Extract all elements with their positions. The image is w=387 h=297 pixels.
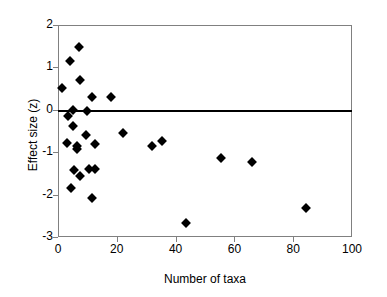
y-tick-label: 1: [13, 60, 53, 72]
x-tick-label: 0: [38, 243, 78, 255]
y-tick-label: -1: [13, 145, 53, 157]
x-tick-label: 40: [156, 243, 196, 255]
y-tick-label: 0: [13, 103, 53, 115]
y-tick-mark: [53, 237, 58, 238]
y-tick-mark: [53, 195, 58, 196]
x-tick-label: 100: [332, 243, 372, 255]
x-tick-label: 80: [273, 243, 313, 255]
y-tick-mark: [53, 110, 58, 111]
y-tick-mark: [53, 25, 58, 26]
scatter-plot-figure: Effect size (z) 210-1-2-3 020406080100 N…: [0, 0, 387, 297]
x-tick-label: 60: [214, 243, 254, 255]
y-tick-label: -2: [13, 188, 53, 200]
y-tick-label: -3: [13, 230, 53, 242]
zero-reference-line: [58, 110, 352, 112]
y-tick-mark: [53, 152, 58, 153]
x-tick-label: 20: [97, 243, 137, 255]
y-tick-label: 2: [13, 18, 53, 30]
x-axis-title: Number of taxa: [58, 272, 352, 286]
y-tick-mark: [53, 67, 58, 68]
